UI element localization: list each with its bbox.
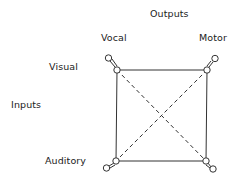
connection-diagram [0, 0, 235, 181]
edge-diagonal-visual-motor-to-auditory-vocal [116, 70, 207, 161]
node-auditory-motor [203, 158, 209, 164]
node-handle-visual-vocal [105, 55, 117, 67]
edge-vocal-column [116, 70, 117, 161]
node-visual-vocal [114, 67, 120, 73]
node-handle-auditory-motor [206, 163, 216, 172]
node-visual-motor [204, 67, 210, 73]
node-handle-visual-motor [207, 55, 218, 67]
edge-motor-column [206, 70, 207, 161]
node-handle-auditory-vocal [103, 163, 115, 171]
node-auditory-vocal [113, 158, 119, 164]
